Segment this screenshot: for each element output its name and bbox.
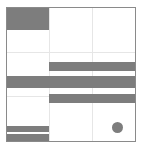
game-board xyxy=(6,7,136,142)
bottom-bar-1[interactable] xyxy=(7,126,49,132)
dot-marker[interactable] xyxy=(112,122,123,133)
grid-line-horizontal-1 xyxy=(7,52,135,53)
bar-3[interactable] xyxy=(49,94,135,103)
grid-line-vertical-2 xyxy=(92,8,93,141)
bottom-bar-2[interactable] xyxy=(7,134,49,141)
bar-1[interactable] xyxy=(49,62,135,71)
grid-line-vertical-1 xyxy=(49,8,50,141)
top-left-block[interactable] xyxy=(7,8,49,30)
bar-2[interactable] xyxy=(7,76,135,88)
